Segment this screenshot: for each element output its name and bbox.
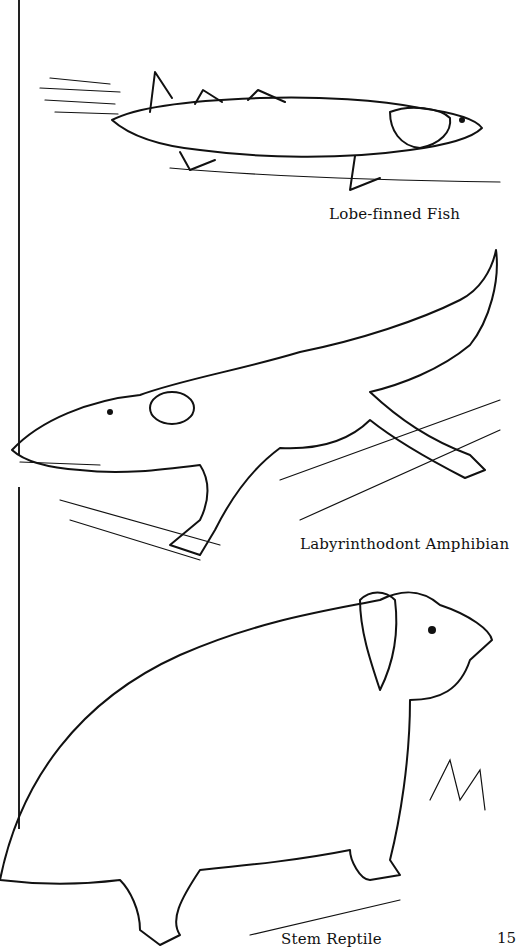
caption-stem-reptile: Stem Reptile bbox=[281, 930, 382, 948]
lobe-finned-fish-illustration bbox=[40, 72, 500, 190]
caption-labyrinthodont-amphibian: Labyrinthodont Amphibian bbox=[300, 535, 509, 553]
page-number: 15 bbox=[497, 929, 516, 947]
labyrinthodont-amphibian-illustration bbox=[12, 250, 500, 560]
stem-reptile-illustration bbox=[0, 592, 492, 945]
line-art-illustrations bbox=[0, 0, 524, 949]
caption-lobe-finned-fish: Lobe-finned Fish bbox=[329, 205, 460, 223]
